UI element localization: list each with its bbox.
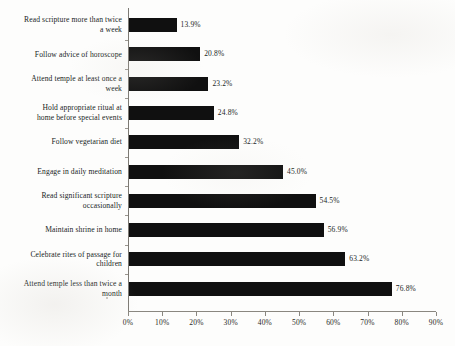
value-tick-label: 40%	[258, 318, 272, 327]
bar-row: 20.8%	[128, 47, 436, 61]
plot-area: 0%10%20%30%40%50%60%70%80%90% 13.9%20.8%…	[128, 8, 436, 311]
category-tick	[125, 186, 128, 187]
category-label-line: Engage in daily meditation	[6, 167, 122, 177]
category-label-line: Attend temple less than twice a	[6, 279, 122, 289]
bar-value-label: 54.5%	[320, 196, 340, 205]
category-label: Engage in daily meditation	[6, 167, 122, 177]
value-tick-label: 60%	[326, 318, 340, 327]
category-label-line: Read significant scripture	[6, 191, 122, 201]
category-label-line: a week	[6, 25, 122, 35]
category-label-line: week	[6, 84, 122, 94]
value-tick	[162, 312, 163, 316]
value-tick	[231, 312, 232, 316]
bar-value-label: 20.8%	[204, 49, 224, 58]
value-tick	[436, 312, 437, 316]
scan-speck	[106, 297, 108, 299]
category-label: Read significant scriptureoccasionally	[6, 191, 122, 210]
bar-value-label: 32.2%	[243, 137, 263, 146]
category-label: Follow vegetarian diet	[6, 137, 122, 147]
category-label-line: Maintain shrine in home	[6, 225, 122, 235]
bar	[129, 252, 345, 266]
bar-value-label: 45.0%	[287, 167, 307, 176]
bar-value-label: 23.2%	[212, 79, 232, 88]
category-label: Follow advice of horoscope	[6, 50, 122, 60]
bar	[129, 223, 324, 237]
category-label-line: Celebrate rites of passage for	[6, 250, 122, 260]
value-tick-label: 10%	[155, 318, 169, 327]
category-label-line: children	[6, 259, 122, 269]
category-label: Read scripture more than twicea week	[6, 15, 122, 34]
category-label-line: Follow vegetarian diet	[6, 137, 122, 147]
bar	[129, 106, 214, 120]
bar-row: 32.2%	[128, 135, 436, 149]
horizontal-bar-chart: 0%10%20%30%40%50%60%70%80%90% 13.9%20.8%…	[0, 0, 455, 346]
bar-row: 24.8%	[128, 106, 436, 120]
value-tick-label: 70%	[360, 318, 374, 327]
bar-row: 23.2%	[128, 77, 436, 91]
value-tick-label: 30%	[223, 318, 237, 327]
bar	[129, 165, 283, 179]
value-tick	[333, 312, 334, 316]
value-tick	[265, 312, 266, 316]
value-axis-line	[128, 311, 436, 312]
bar-value-label: 63.2%	[349, 254, 369, 263]
value-tick	[196, 312, 197, 316]
bar-row: 63.2%	[128, 252, 436, 266]
category-label-line: Hold appropriate ritual at	[6, 103, 122, 113]
category-label-line: Follow advice of horoscope	[6, 50, 122, 60]
bar-value-label: 13.9%	[181, 20, 201, 29]
value-tick-label: 50%	[292, 318, 306, 327]
value-tick	[402, 312, 403, 316]
category-label: Maintain shrine in home	[6, 225, 122, 235]
bar-value-label: 76.8%	[396, 284, 416, 293]
bar	[129, 77, 208, 91]
bar-row: 76.8%	[128, 282, 436, 296]
value-tick-label: 0%	[123, 318, 133, 327]
bar-row: 56.9%	[128, 223, 436, 237]
category-axis-line	[128, 8, 129, 311]
bar	[129, 194, 316, 208]
category-tick	[125, 245, 128, 246]
value-tick-label: 80%	[395, 318, 409, 327]
bar-row: 45.0%	[128, 165, 436, 179]
bar-row: 54.5%	[128, 194, 436, 208]
value-tick	[128, 312, 129, 316]
category-tick	[125, 157, 128, 158]
category-label-line: home before special events	[6, 113, 122, 123]
category-tick	[125, 274, 128, 275]
category-label: Hold appropriate ritual athome before sp…	[6, 103, 122, 122]
value-tick	[368, 312, 369, 316]
value-tick-label: 20%	[189, 318, 203, 327]
category-tick	[125, 40, 128, 41]
value-tick-label: 90%	[429, 318, 443, 327]
category-tick	[125, 69, 128, 70]
bar-row: 13.9%	[128, 18, 436, 32]
bar	[129, 282, 392, 296]
category-tick	[125, 128, 128, 129]
bar-value-label: 24.8%	[218, 108, 238, 117]
category-label-line: Read scripture more than twice	[6, 15, 122, 25]
category-label: Celebrate rites of passage forchildren	[6, 250, 122, 269]
category-tick	[125, 98, 128, 99]
category-label: Attend temple at least once aweek	[6, 74, 122, 93]
bar	[129, 47, 200, 61]
category-label-line: month	[6, 289, 122, 299]
bar	[129, 135, 239, 149]
bar	[129, 18, 177, 32]
bar-value-label: 56.9%	[328, 225, 348, 234]
value-tick	[299, 312, 300, 316]
category-label-line: occasionally	[6, 201, 122, 211]
category-label-line: Attend temple at least once a	[6, 74, 122, 84]
category-tick	[125, 215, 128, 216]
category-label: Attend temple less than twice amonth	[6, 279, 122, 298]
